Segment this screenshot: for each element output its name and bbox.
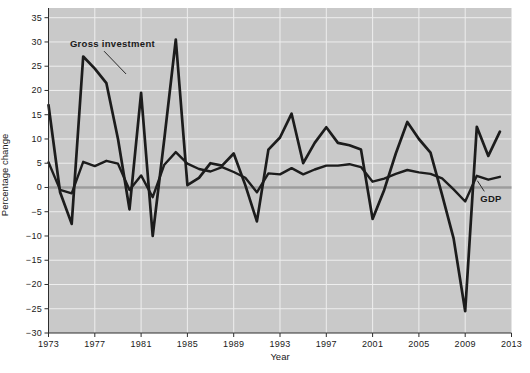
x-tick-label: 1989: [223, 339, 244, 349]
y-tick-label: 20: [31, 85, 42, 95]
x-tick-label: 1993: [269, 339, 290, 349]
y-tick-label: 30: [31, 37, 42, 47]
line-chart: 35302520151050−5−10−15−20−25−30197319771…: [0, 0, 530, 373]
y-tick-label: 10: [31, 134, 42, 144]
y-tick-label: −20: [26, 279, 42, 289]
y-axis-title: Percentage change: [0, 134, 10, 216]
x-tick-label: 2009: [455, 339, 476, 349]
y-tick-label: −15: [26, 255, 42, 265]
x-tick-label: 2001: [362, 339, 383, 349]
y-tick-label: 35: [31, 13, 42, 23]
x-tick-label: 1973: [38, 339, 59, 349]
x-tick-label: 2013: [501, 339, 522, 349]
y-tick-label: −25: [26, 304, 42, 314]
y-tick-label: 0: [37, 182, 42, 192]
x-tick-label: 2005: [408, 339, 429, 349]
x-tick-label: 1997: [316, 339, 337, 349]
x-tick-label: 1977: [84, 339, 105, 349]
y-tick-label: 15: [31, 110, 42, 120]
y-tick-label: −10: [26, 231, 42, 241]
x-tick-label: 1981: [130, 339, 151, 349]
y-tick-label: −5: [31, 207, 42, 217]
chart-figure: 35302520151050−5−10−15−20−25−30197319771…: [0, 0, 530, 373]
y-tick-label: 25: [31, 61, 42, 71]
gross-investment-label: Gross investment: [70, 38, 156, 49]
gdp-label: GDP: [480, 193, 502, 204]
x-tick-label: 1985: [177, 339, 198, 349]
x-axis-title: Year: [270, 351, 289, 362]
y-tick-label: −30: [26, 328, 42, 338]
y-tick-label: 5: [37, 158, 42, 168]
